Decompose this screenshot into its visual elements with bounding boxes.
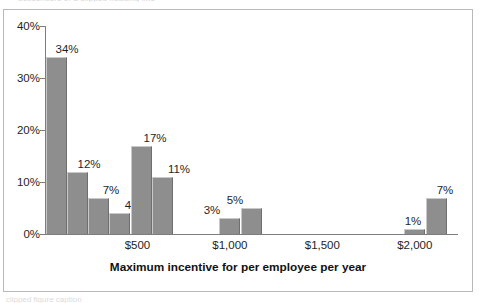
x-axis-title: Maximum incentive for per employee per y… <box>4 260 472 274</box>
clipped-caption-text: clipped figure caption <box>6 295 306 303</box>
x-tick-label: $500 <box>125 239 151 251</box>
clipped-heading-text: descenders of a clipped heading line <box>18 0 458 2</box>
figure-frame: 40% 30% 20% 10% 0% 34%12%7%4%17%11%3%5%1… <box>3 9 473 292</box>
chart-screenshot: descenders of a clipped heading line 40%… <box>0 0 479 303</box>
x-ticks-layer: $500$1,000$1,500$2,000 <box>4 10 474 293</box>
x-tick-label: $1,500 <box>305 239 340 251</box>
x-tick-label: $2,000 <box>397 239 432 251</box>
x-tick-label: $1,000 <box>212 239 247 251</box>
